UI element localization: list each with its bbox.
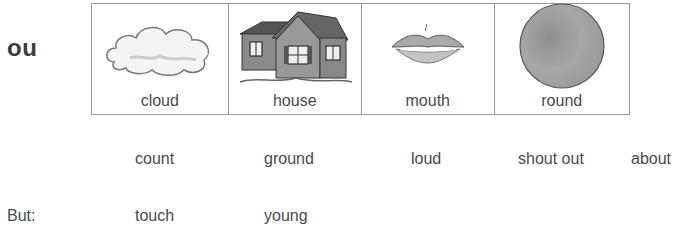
exception-word: young — [264, 207, 308, 225]
card-label: house — [229, 92, 362, 110]
picture-card-house: house — [229, 4, 363, 114]
example-word: count — [135, 150, 174, 168]
circle-icon — [518, 2, 606, 90]
example-word: loud — [411, 150, 441, 168]
example-word: shout out — [518, 150, 584, 168]
phonics-heading: ou — [7, 34, 37, 62]
example-word: about — [631, 150, 671, 168]
exception-word: touch — [135, 207, 174, 225]
card-label: mouth — [362, 92, 494, 110]
picture-card-grid: cloud house — [91, 3, 630, 115]
example-word: ground — [264, 150, 314, 168]
picture-card-mouth: mouth — [362, 4, 495, 114]
picture-card-round: round — [495, 4, 630, 114]
house-icon — [236, 8, 354, 88]
card-label: cloud — [92, 92, 228, 110]
picture-card-cloud: cloud — [92, 4, 229, 114]
card-label: round — [495, 92, 630, 110]
cloud-icon — [100, 18, 220, 78]
exceptions-label: But: — [7, 207, 35, 225]
mouth-icon — [388, 23, 468, 73]
